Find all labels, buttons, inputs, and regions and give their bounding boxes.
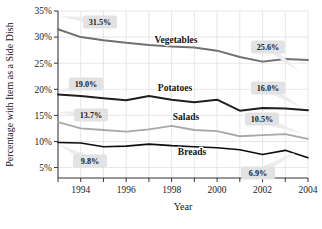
callout-value-breads-end: 6.9% <box>249 169 267 178</box>
y-tick-label: 20% <box>35 85 53 95</box>
series-label-potatoes: Potatoes <box>158 83 193 93</box>
y-tick-label: 5% <box>39 163 52 173</box>
x-tick-label: 1996 <box>117 185 136 195</box>
series-label-vegetables: Vegetables <box>155 35 198 45</box>
x-tick-label: 2002 <box>253 185 272 195</box>
x-tick-label: 1998 <box>162 185 181 195</box>
series-label-salads: Salads <box>173 112 200 122</box>
chart-container: 5%10%15%20%25%30%35% 1994199619982000200… <box>0 0 322 229</box>
x-tick-label: 2004 <box>299 185 318 195</box>
callout-value-vegetables-end: 25.6% <box>257 43 280 52</box>
y-axis-ticks: 5%10%15%20%25%30%35% <box>35 6 58 173</box>
line-chart: 5%10%15%20%25%30%35% 1994199619982000200… <box>0 0 322 229</box>
series-labels: VegetablesVegetablesPotatoesPotatoesSala… <box>155 35 207 157</box>
x-tick-label: 1994 <box>71 185 90 195</box>
y-axis-title: Percentage with Item as a Side Dish <box>4 22 15 166</box>
x-axis-title: Year <box>174 201 193 212</box>
y-tick-label: 35% <box>35 6 53 16</box>
y-tick-label: 10% <box>35 137 53 147</box>
y-tick-label: 15% <box>35 111 53 121</box>
series-label-breads: Breads <box>178 147 207 157</box>
callout-value-potatoes-start: 19.0% <box>75 80 98 89</box>
series-line-potatoes <box>58 95 308 111</box>
x-tick-label: 2000 <box>208 185 227 195</box>
callout-value-salads-start: 13.7% <box>80 111 103 120</box>
callout-value-salads-end: 10.5% <box>251 115 274 124</box>
callout-value-breads-start: 9.8% <box>81 157 99 166</box>
callout-value-vegetables-start: 31.5% <box>89 18 112 27</box>
y-tick-label: 30% <box>35 32 53 42</box>
x-axis-ticks: 199419961998200020022004 <box>58 178 318 195</box>
callout-value-potatoes-end: 16.0% <box>257 84 280 93</box>
y-tick-label: 25% <box>35 59 53 69</box>
